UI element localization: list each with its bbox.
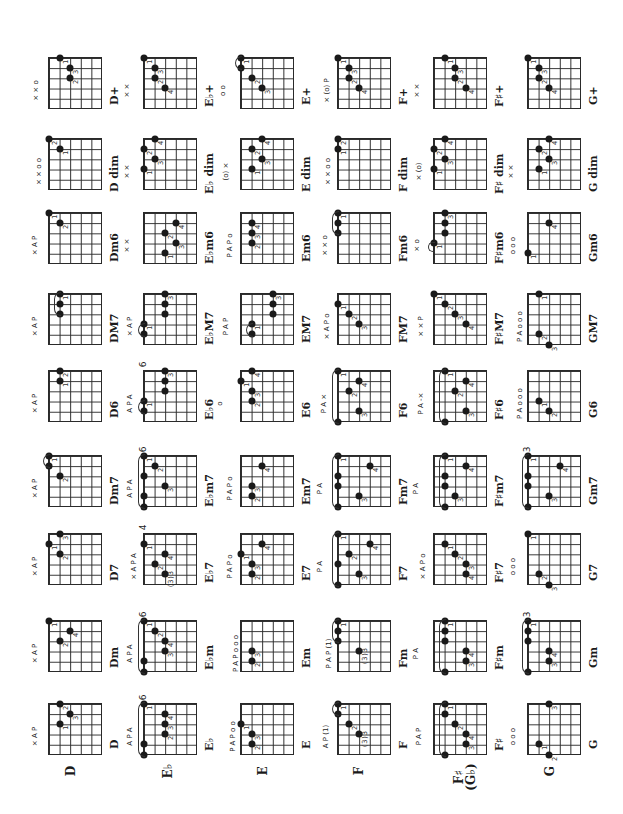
chord-name: EM7 <box>300 315 313 343</box>
fret-position: 6 <box>140 612 147 618</box>
chord-name: E♭m6 <box>203 231 216 264</box>
chord-name: F♯M7 <box>493 312 506 345</box>
finger-number: 4 <box>469 467 476 471</box>
string-markers: A P A <box>127 644 134 662</box>
finger-number: 1 <box>531 457 538 461</box>
finger-number: 3 <box>362 498 369 502</box>
finger-number: 4 <box>265 140 272 144</box>
string-markers: o <box>217 401 224 405</box>
string-markers: × × <box>124 239 131 253</box>
chord-diagram: 123o oE+ <box>240 57 335 139</box>
string-markers: o o <box>220 85 227 96</box>
chord-diagram: 1423P AF7 <box>337 533 432 615</box>
string-markers: P A P <box>416 728 423 746</box>
chord-diagram: 12× A PDm6 <box>48 212 143 294</box>
finger-number: 4 <box>265 545 272 549</box>
finger-number: 2 <box>63 372 70 376</box>
finger-number: 1 <box>63 382 70 386</box>
chord-name: E <box>300 741 313 749</box>
finger-number: 2 <box>458 80 465 84</box>
finger-number: 2 <box>458 393 465 397</box>
finger-number: 4 <box>255 372 262 376</box>
finger-number: 1 <box>341 457 348 461</box>
finger-number: 2 <box>158 566 165 570</box>
finger-number: 1 <box>437 171 444 175</box>
finger-number: 2 <box>458 556 465 560</box>
finger-number: 1 <box>147 403 154 407</box>
finger-number: 2 <box>448 305 455 309</box>
barre-arc <box>522 619 529 674</box>
finger-number: 1 <box>147 622 154 626</box>
column-root-label: E <box>257 766 269 775</box>
chord-name: F♯+ <box>493 85 506 107</box>
finger-number: 4 <box>469 90 476 94</box>
string-markers: × A P <box>32 644 39 663</box>
finger-number: 2 <box>168 736 175 740</box>
finger-number: 1 <box>63 150 70 154</box>
finger-number: 3 <box>458 498 465 502</box>
chord-name: Gm6 <box>587 233 600 262</box>
finger-number: 4 <box>265 467 272 471</box>
finger-number: 1 <box>255 326 262 330</box>
chord-diagram: 1423P A -×F♯6 <box>433 370 528 452</box>
fretboard-grid <box>143 138 197 190</box>
finger-number: 4 <box>362 90 369 94</box>
finger-number: 3 <box>469 566 476 570</box>
chord-name: GM7 <box>587 314 600 343</box>
string-markers: P A P <box>223 318 230 336</box>
chord-diagram: 32P A P o o oEm <box>240 620 335 702</box>
chord-name: Dm <box>108 647 121 668</box>
string-markers: P A P o o <box>230 721 237 752</box>
finger-number: 2 <box>63 478 70 482</box>
column-root-label: E♭ <box>162 764 174 779</box>
chord-diagram: 4132P A P oE7 <box>240 533 335 615</box>
chord-name: E7 <box>300 565 313 581</box>
chord-name: Em <box>300 648 313 668</box>
chord-name: Gm7 <box>587 476 600 505</box>
string-markers: P A -× <box>418 393 425 415</box>
finger-number: 3 <box>255 235 262 239</box>
fretboard-grid <box>240 620 294 672</box>
finger-dot <box>162 387 169 394</box>
string-markers: × A P <box>32 236 39 255</box>
barre-arc <box>138 619 145 674</box>
string-markers: × o <box>414 239 421 251</box>
chord-name: DM7 <box>108 314 121 343</box>
chord-diagram: 4231× ×G dim <box>527 138 622 220</box>
finger-number: 3 <box>255 393 262 397</box>
string-markers: o o o <box>510 728 517 745</box>
fretboard-grid <box>240 455 294 507</box>
finger-number: (3)3 <box>168 571 175 588</box>
chord-diagram: 1324× ×E♭+ <box>143 57 238 139</box>
finger-number: 1 <box>437 295 444 299</box>
string-markers: × × o o <box>36 158 43 185</box>
chord-name: Fm <box>397 649 410 668</box>
finger-number: 1 <box>341 214 348 218</box>
finger-number: 4 <box>552 140 559 144</box>
finger-number: 2 <box>552 413 559 417</box>
chord-name: F7 <box>397 566 410 581</box>
fretboard-grid <box>527 703 581 755</box>
barre-arc <box>138 702 145 757</box>
finger-number: 2 <box>255 150 262 154</box>
string-markers: × × P <box>418 316 425 336</box>
string-markers: P A P o <box>227 476 234 500</box>
finger-number: 1 <box>255 171 262 175</box>
finger-number: 3 <box>469 413 476 417</box>
chord-diagram: 312o o oG <box>527 703 622 785</box>
chord-name: D <box>108 739 121 749</box>
chord-diagram: 123o o oG7 <box>527 533 622 615</box>
finger-number: 3 <box>73 715 80 719</box>
chord-name: F♯7 <box>493 562 506 583</box>
finger-dot <box>441 219 448 226</box>
finger-number: 4 <box>168 715 175 719</box>
barre-arc <box>428 242 435 252</box>
finger-number: 1 <box>147 545 154 549</box>
string-markers: × A P o <box>420 554 427 580</box>
finger-number: 3 <box>158 69 165 73</box>
finger-number: 2 <box>255 498 262 502</box>
chord-name: G dim <box>587 155 600 192</box>
finger-dot <box>441 229 448 236</box>
finger-number: 3 <box>448 161 455 165</box>
finger-number: 1 <box>531 255 538 259</box>
